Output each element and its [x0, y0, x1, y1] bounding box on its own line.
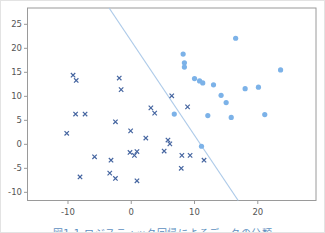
- y-tick-label: 0: [17, 139, 22, 149]
- data-point-x: [179, 166, 183, 170]
- data-point-o: [229, 115, 234, 120]
- data-point-o: [278, 67, 283, 72]
- data-point-x: [108, 171, 112, 175]
- plot-frame: [28, 8, 317, 201]
- data-point-x: [119, 87, 123, 91]
- x-tick-label: 20: [252, 207, 263, 217]
- data-point-o: [192, 76, 197, 81]
- data-point-x: [109, 158, 113, 162]
- data-point-o: [218, 93, 223, 98]
- data-point-o: [181, 51, 186, 56]
- data-point-x: [180, 153, 184, 157]
- data-point-o: [233, 36, 238, 41]
- data-point-x: [74, 78, 78, 82]
- data-point-x: [117, 76, 121, 80]
- data-point-x: [152, 111, 156, 115]
- data-point-x: [83, 112, 87, 116]
- data-point-x: [113, 176, 117, 180]
- data-point-x: [149, 106, 153, 110]
- data-point-x: [128, 150, 132, 154]
- x-tick-label: 0: [129, 207, 134, 217]
- data-point-x: [135, 149, 139, 153]
- data-point-x: [135, 179, 139, 183]
- data-point-o: [243, 86, 248, 91]
- figure: -10-50510152025-1001020 図1.1 ロジスティック回帰によ…: [1, 1, 324, 232]
- data-point-x: [132, 153, 136, 157]
- figure-caption: 図1.1 ロジスティック回帰によるデータの分類: [1, 225, 324, 233]
- data-point-o: [262, 112, 267, 117]
- data-point-x: [65, 131, 69, 135]
- data-point-o: [172, 111, 177, 116]
- data-point-x: [162, 149, 166, 153]
- x-tick-label: -10: [61, 207, 75, 217]
- y-tick-label: 15: [11, 67, 22, 77]
- data-point-x: [170, 94, 174, 98]
- data-point-x: [128, 129, 132, 133]
- data-point-x: [78, 175, 82, 179]
- data-point-o: [211, 82, 216, 87]
- y-tick-label: -5: [14, 163, 22, 173]
- data-point-o: [199, 144, 204, 149]
- data-point-x: [202, 158, 206, 162]
- data-point-o: [182, 64, 187, 69]
- y-tick-label: -10: [8, 187, 22, 197]
- scatter-plot: -10-50510152025-1001020: [1, 1, 325, 223]
- data-point-x: [113, 120, 117, 124]
- data-point-x: [71, 73, 75, 77]
- data-point-x: [144, 136, 148, 140]
- data-point-x: [185, 105, 189, 109]
- data-point-x: [92, 155, 96, 159]
- y-tick-label: 5: [17, 115, 22, 125]
- y-tick-label: 10: [11, 91, 22, 101]
- data-point-o: [205, 113, 210, 118]
- data-point-x: [73, 112, 77, 116]
- data-point-o: [256, 85, 261, 90]
- data-point-o: [224, 100, 229, 105]
- y-tick-label: 25: [11, 19, 22, 29]
- y-tick-label: 20: [11, 43, 22, 53]
- x-tick-label: 10: [189, 207, 200, 217]
- data-point-x: [188, 153, 192, 157]
- decision-boundary-line: [109, 8, 238, 201]
- data-point-o: [200, 80, 205, 85]
